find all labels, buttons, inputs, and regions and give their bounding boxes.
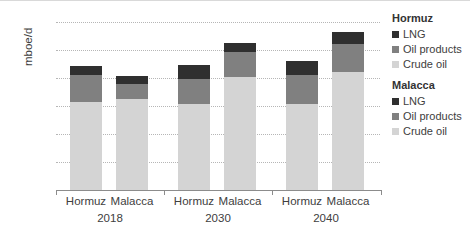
bar-segment-lng <box>116 76 148 84</box>
legend-swatch-icon <box>392 46 399 53</box>
chart-legend: Hormuz LNG Oil products Crude oil Malacc… <box>392 12 470 140</box>
bar-segment-crude <box>178 104 210 190</box>
y-axis-label: mboe/d <box>22 28 34 66</box>
legend-item-malacca-oil-products[interactable]: Oil products <box>392 110 470 122</box>
bar-segment-lng <box>178 65 210 79</box>
bar-segment-oil <box>70 75 102 102</box>
legend-swatch-icon <box>392 98 399 105</box>
bar-segment-crude <box>70 102 102 190</box>
legend-swatch-icon <box>392 128 399 135</box>
x-axis-tick-sep-2 <box>272 190 273 195</box>
legend-item-label: LNG <box>403 95 426 107</box>
bar-segment-oil <box>286 75 318 104</box>
legend-item-hormuz-crude-oil[interactable]: Crude oil <box>392 58 470 70</box>
bar-segment-lng <box>286 61 318 74</box>
x-axis-group-label: 2040 <box>266 212 386 224</box>
x-axis-tick-sep-1 <box>164 190 165 195</box>
legend-group-title: Hormuz <box>392 12 470 25</box>
bar-hormuz-2018[interactable] <box>70 22 102 190</box>
x-axis-line <box>56 190 382 191</box>
bar-segment-oil <box>178 79 210 104</box>
legend-item-label: Crude oil <box>403 125 447 137</box>
x-axis-group-label: 2018 <box>50 212 170 224</box>
legend-swatch-icon <box>392 61 399 68</box>
legend-item-label: Oil products <box>403 43 462 55</box>
legend-group-malacca: Malacca LNG Oil products Crude oil <box>392 79 470 137</box>
legend-item-malacca-lng[interactable]: LNG <box>392 95 470 107</box>
bar-segment-crude <box>332 72 364 190</box>
bar-malacca-2018[interactable] <box>116 22 148 190</box>
bar-segment-oil <box>224 52 256 78</box>
legend-item-hormuz-oil-products[interactable]: Oil products <box>392 43 470 55</box>
x-axis-category-label: Malacca <box>320 195 376 207</box>
x-axis-tick-start <box>56 190 57 195</box>
bar-segment-lng <box>70 66 102 75</box>
legend-item-hormuz-lng[interactable]: LNG <box>392 28 470 40</box>
legend-item-label: LNG <box>403 28 426 40</box>
x-axis-group-label: 2030 <box>158 212 278 224</box>
bar-segment-oil <box>116 84 148 99</box>
legend-item-label: Crude oil <box>403 58 447 70</box>
x-axis-category-label: Malacca <box>212 195 268 207</box>
plot-area: mboe/d 51015202530 <box>56 22 380 190</box>
x-axis-tick-end <box>381 190 382 195</box>
bar-segment-lng <box>224 43 256 51</box>
bar-segment-lng <box>332 32 364 44</box>
bar-malacca-2030[interactable] <box>224 22 256 190</box>
bar-hormuz-2030[interactable] <box>178 22 210 190</box>
bar-hormuz-2040[interactable] <box>286 22 318 190</box>
bar-segment-crude <box>286 104 318 190</box>
bar-segment-crude <box>224 77 256 190</box>
legend-item-malacca-crude-oil[interactable]: Crude oil <box>392 125 470 137</box>
x-axis-category-label: Malacca <box>104 195 160 207</box>
legend-group-title: Malacca <box>392 79 470 92</box>
legend-item-label: Oil products <box>403 110 462 122</box>
legend-group-hormuz: Hormuz LNG Oil products Crude oil <box>392 12 470 70</box>
bar-segment-oil <box>332 44 364 73</box>
bar-malacca-2040[interactable] <box>332 22 364 190</box>
bar-segment-crude <box>116 99 148 190</box>
stacked-bar-chart: mboe/d 51015202530 HormuzMalaccaHormuzMa… <box>0 0 470 236</box>
top-divider <box>0 0 470 1</box>
legend-swatch-icon <box>392 31 399 38</box>
legend-swatch-icon <box>392 113 399 120</box>
